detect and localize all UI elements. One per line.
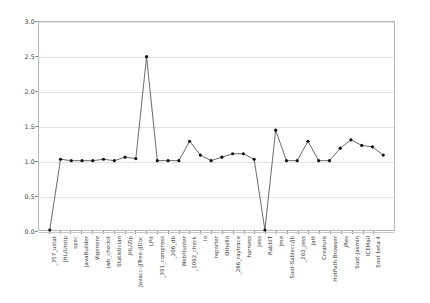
- data-point: [382, 154, 385, 157]
- data-point: [296, 159, 299, 162]
- x-axis-tick-label: io: [202, 236, 208, 241]
- x-axis-tick-label: _266_raytrace: [235, 236, 241, 275]
- x-axis-tick-label: Soot-Sablecc/Jb: [289, 236, 295, 279]
- data-point: [113, 159, 116, 162]
- x-axis-tick-label: spec: [72, 236, 78, 249]
- data-point: [48, 228, 51, 231]
- x-axis-tick-label: _202_jess: [300, 236, 306, 263]
- x-axis-tick-label: Othello: [224, 236, 230, 256]
- data-point: [263, 228, 266, 231]
- x-axis-tick-label: WebHunter: [181, 236, 187, 267]
- plot-area: [38, 21, 395, 231]
- x-axis-tick-label: RabbIT: [267, 236, 273, 255]
- data-point: [220, 156, 223, 159]
- x-axis-tick-label: Jess: [256, 236, 262, 247]
- data-point: [91, 159, 94, 162]
- y-axis-tick-label: 2.0: [5, 88, 35, 95]
- x-axis-tick-label: Statistician: [116, 236, 122, 267]
- gridline: [39, 232, 394, 233]
- data-point: [70, 159, 73, 162]
- x-axis-tick-label: JRes: [343, 236, 349, 247]
- x-axis-tick-label: Soot beta 4: [375, 236, 381, 268]
- x-axis-tick-label: _391_compress: [159, 236, 165, 278]
- data-point: [80, 159, 83, 162]
- data-point: [371, 145, 374, 148]
- data-point: [59, 158, 62, 161]
- y-axis-tick-mark: [35, 231, 38, 232]
- series-line: [50, 57, 383, 230]
- x-axis-tick-label: LPit: [148, 236, 154, 246]
- chart-figure: 0.00.51.01.52.02.53.0 _357_ustatJHL/Unzi…: [0, 0, 430, 303]
- y-axis-tick-label: 0.0: [5, 228, 35, 235]
- data-point: [274, 129, 277, 132]
- x-axis-tick-label: JHL/Zip: [127, 236, 133, 255]
- x-axis-tick-label: JHL/Unzip: [62, 236, 68, 262]
- data-point: [231, 152, 234, 155]
- x-axis-tick-label: harness: [246, 236, 252, 258]
- data-point: [285, 159, 288, 162]
- y-axis-tick-label: 2.5: [5, 53, 35, 60]
- data-point: [188, 140, 191, 143]
- x-axis-tick-label: _357_ustat: [51, 236, 57, 266]
- data-point: [242, 152, 245, 155]
- x-axis-tick-label: _1002_check: [191, 236, 197, 271]
- series-markers: [48, 55, 385, 232]
- data-point: [253, 158, 256, 161]
- y-axis-tick-label: 1.5: [5, 123, 35, 130]
- x-axis-tick-label: Vigenere: [94, 236, 100, 260]
- x-axis-tick-label: jwb_checkit: [105, 236, 111, 268]
- x-axis-tick-label: JavaBuilder: [83, 236, 89, 267]
- data-point: [306, 140, 309, 143]
- data-point: [123, 156, 126, 159]
- x-axis-tick-label: HotPath Browser: [332, 236, 338, 282]
- data-point: [317, 159, 320, 162]
- y-axis-tick-label: 0.5: [5, 193, 35, 200]
- data-point: [349, 138, 352, 141]
- data-point: [339, 147, 342, 150]
- data-point: [134, 157, 137, 160]
- data-point: [167, 159, 170, 162]
- data-point: [156, 159, 159, 162]
- x-axis-tick-label: Jme: [278, 236, 284, 246]
- x-axis-tick-label: reporter: [213, 236, 219, 258]
- x-axis-tick-label: Javacc-JJTree-JJDoc: [137, 236, 143, 287]
- x-axis-tick-label: Jatt: [310, 236, 316, 245]
- data-point: [199, 154, 202, 157]
- x-axis-tick-label: _206_db: [170, 236, 176, 259]
- data-point: [360, 144, 363, 147]
- data-point: [210, 159, 213, 162]
- y-axis-tick-label: 3.0: [5, 18, 35, 25]
- y-axis-tick-label: 1.0: [5, 158, 35, 165]
- series-layer: [39, 22, 394, 230]
- data-point: [145, 55, 148, 58]
- x-axis-tick-label: Creature: [321, 236, 327, 260]
- x-axis-tick-label: Soot-Jasmin: [354, 236, 360, 269]
- data-point: [328, 159, 331, 162]
- data-point: [177, 159, 180, 162]
- x-axis-tick-label: ICEMail: [365, 236, 371, 256]
- data-point: [102, 158, 105, 161]
